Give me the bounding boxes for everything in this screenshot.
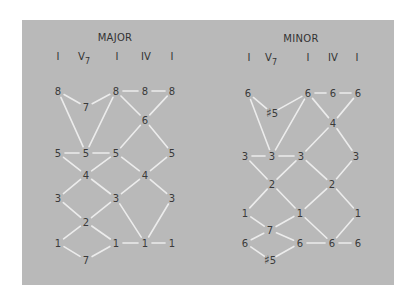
scale-degree-node: 3: [169, 193, 175, 204]
scale-degree-node: 3: [113, 193, 119, 204]
major-title: MAJOR: [98, 32, 133, 43]
voice-line: [276, 246, 294, 256]
voice-line: [150, 157, 166, 170]
scale-degree-node: 1: [142, 238, 148, 249]
voice-line: [337, 161, 352, 178]
voice-line: [312, 98, 328, 117]
voice-line: [250, 189, 267, 208]
voice-leading-lines: [61, 91, 169, 257]
chord-label: IV: [141, 51, 151, 62]
scale-degree-node: 1: [113, 238, 119, 249]
voice-line: [64, 247, 80, 257]
scale-degree-node: 5: [113, 148, 119, 159]
chord-label: V7: [265, 52, 277, 67]
scale-degree-node: 6: [297, 238, 303, 249]
voice-line: [305, 218, 327, 238]
voice-line: [121, 125, 141, 147]
voice-line: [305, 189, 327, 209]
scale-degree-node: ♯5: [266, 106, 278, 120]
scale-degree-node: 1: [242, 208, 248, 219]
scale-degree-node: ♯5: [264, 253, 276, 267]
minor-title: MINOR: [283, 33, 318, 44]
scale-degree-node: 5: [55, 148, 61, 159]
scale-degree-node: 4: [83, 170, 89, 181]
voice-line: [91, 202, 110, 217]
scale-degree-node: 8: [169, 86, 175, 97]
voice-line: [251, 247, 264, 256]
voice-line: [92, 246, 110, 256]
voice-line: [306, 128, 328, 151]
scale-degree-node: 5: [169, 148, 175, 159]
minor-diagram: MINOR IV7IIVI6♯5666433332211176666♯5: [242, 33, 361, 267]
voice-line: [63, 203, 80, 218]
voice-line: [150, 180, 166, 194]
voice-line: [150, 96, 167, 115]
chord-label: I: [248, 52, 251, 63]
scale-degree-node: 6: [330, 88, 336, 99]
voice-line: [64, 226, 81, 239]
scale-degree-node: 2: [329, 179, 335, 190]
voice-line: [92, 157, 111, 171]
voice-line: [89, 97, 113, 146]
chord-label: I: [171, 51, 174, 62]
scale-degree-node: 8: [142, 86, 148, 97]
scale-degree-node: 8: [55, 86, 61, 97]
scale-degree-node: 3: [353, 151, 359, 162]
voice-line: [92, 179, 111, 193]
scale-degree-node: 1: [355, 208, 361, 219]
voice-line: [306, 161, 327, 180]
scale-degree-node: 6: [142, 115, 148, 126]
scale-degree-node: 4: [142, 170, 148, 181]
scale-degree-node: 6: [245, 88, 251, 99]
voice-line: [250, 161, 267, 179]
voice-line: [277, 161, 296, 179]
voice-line: [277, 189, 295, 208]
voice-line: [251, 217, 264, 226]
voice-line: [337, 98, 353, 117]
voice-line: [253, 97, 266, 108]
scale-degree-node: 6: [329, 238, 335, 249]
voice-line: [121, 96, 140, 115]
scale-degree-node: 7: [83, 102, 89, 113]
chord-label: I: [356, 52, 359, 63]
scale-degree-node: 8: [113, 86, 119, 97]
scale-degree-node: 3: [298, 151, 304, 162]
chord-label: I: [116, 51, 119, 62]
scale-degree-node: 1: [55, 238, 61, 249]
voice-line: [63, 179, 80, 193]
scale-degree-node: 1: [169, 238, 175, 249]
scale-degree-node: 3: [242, 151, 248, 162]
scale-degree-node: 2: [83, 217, 89, 228]
scale-degree-node: 6: [305, 88, 311, 99]
voice-leading-diagrams: MAJOR IV7IIVI878886555544333211117 MINOR…: [0, 0, 415, 300]
scale-degree-node: 7: [83, 255, 89, 266]
voice-line: [278, 96, 302, 109]
chord-label: V7: [78, 51, 90, 66]
scale-degree-node: 6: [355, 238, 361, 249]
scale-degree-node: 3: [269, 151, 275, 162]
voice-line: [149, 204, 169, 237]
scale-degree-node: 1: [297, 208, 303, 219]
chord-label: IV: [328, 52, 338, 63]
voice-line: [276, 233, 293, 240]
chord-label: I: [57, 51, 60, 62]
voice-line: [92, 94, 110, 103]
voice-line: [120, 204, 141, 237]
voice-line: [92, 226, 111, 239]
scale-degree-node: 4: [330, 118, 336, 129]
voice-line: [337, 218, 354, 237]
scale-degree-node: 7: [267, 225, 273, 236]
scale-degree-node: 3: [55, 193, 61, 204]
voice-line: [64, 157, 81, 170]
voice-line: [275, 99, 304, 150]
voice-line: [337, 129, 352, 151]
chord-label: I: [307, 52, 310, 63]
scale-degree-node: 6: [355, 88, 361, 99]
voice-line: [251, 233, 264, 240]
major-diagram: MAJOR IV7IIVI878886555544333211117: [55, 32, 175, 266]
voice-line: [64, 94, 80, 103]
voice-line: [149, 125, 167, 147]
voice-line: [337, 189, 354, 208]
scale-degree-node: 2: [269, 179, 275, 190]
voice-line: [61, 97, 83, 146]
